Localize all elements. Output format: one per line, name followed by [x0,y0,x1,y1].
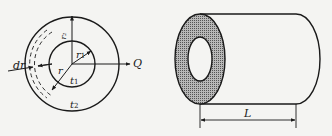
cylinder-back-arc [296,14,320,104]
label-r: r [58,66,63,76]
label-vertical-axis: r₂ [60,32,68,39]
label-r1: r1 [76,50,85,60]
annulus-cross-section [8,16,130,111]
label-length: L [244,108,251,119]
label-t2: t2 [70,100,79,110]
diagram-drawing [0,0,332,136]
label-dr: dr [13,60,25,71]
dr-connector [38,64,52,66]
label-heat-flow-q: Q [133,58,142,69]
label-t1: t1 [70,76,79,86]
diagram-canvas: dr r r1 t1 t2 r₂ Q L [0,0,332,136]
cylinder-hole [188,37,212,81]
